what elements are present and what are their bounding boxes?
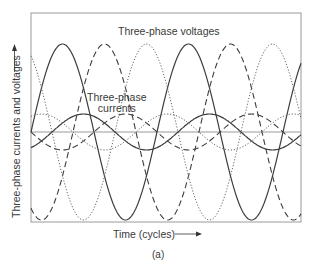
x-axis-label: Time (cycles) [113, 228, 175, 240]
currents-annotation: Three-phase currents [87, 92, 147, 114]
figure-caption: (a) [152, 249, 164, 260]
currents-annotation-line2: currents [87, 103, 147, 114]
x-axis-arrow-icon [175, 232, 202, 237]
voltages-annotation: Three-phase voltages [118, 25, 220, 37]
y-axis-label: Three-phase currents and voltages [10, 55, 22, 218]
